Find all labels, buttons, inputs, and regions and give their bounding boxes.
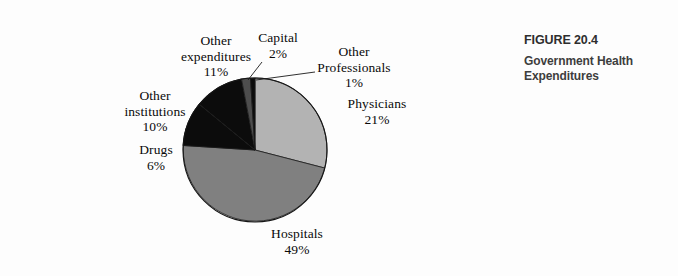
- pie-label-hospitals-value: 49%: [255, 242, 339, 258]
- pie-label-drugs: Drugs 6%: [125, 142, 187, 173]
- pie-label-other-professionals-line1: Other: [300, 44, 408, 60]
- pie-label-other-professionals-value: 1%: [300, 75, 408, 91]
- pie-chart-area: Other expenditures 11% Capital 2% Other …: [0, 0, 470, 276]
- pie-label-physicians: Physicians 21%: [336, 96, 418, 127]
- pie-label-other-institutions-value: 10%: [105, 119, 205, 135]
- pie-label-physicians-name: Physicians: [336, 96, 418, 112]
- figure-caption: FIGURE 20.4 Government Health Expenditur…: [524, 33, 664, 84]
- pie-label-other-institutions: Other institutions 10%: [105, 88, 205, 135]
- pie-label-hospitals-name: Hospitals: [255, 226, 339, 242]
- pie-label-other-expenditures-value: 11%: [168, 64, 264, 80]
- pie-label-other-professionals-line2: Professionals: [300, 60, 408, 76]
- pie-label-other-institutions-line2: institutions: [105, 104, 205, 120]
- figure-number: FIGURE 20.4: [524, 33, 664, 47]
- pie-label-drugs-name: Drugs: [125, 142, 187, 158]
- pie-label-other-professionals: Other Professionals 1%: [300, 44, 408, 91]
- figure-page: Other expenditures 11% Capital 2% Other …: [0, 0, 678, 276]
- pie-label-drugs-value: 6%: [125, 158, 187, 174]
- pie-label-other-institutions-line1: Other: [105, 88, 205, 104]
- pie-label-hospitals: Hospitals 49%: [255, 226, 339, 257]
- figure-title: Government Health Expenditures: [524, 54, 664, 84]
- pie-label-physicians-value: 21%: [336, 112, 418, 128]
